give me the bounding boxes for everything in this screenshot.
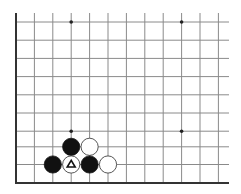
white-stone (99, 156, 116, 173)
star-point (180, 129, 184, 133)
star-point (180, 20, 184, 24)
black-stone (81, 156, 98, 173)
stones (44, 138, 116, 173)
go-board (0, 0, 241, 194)
star-point (69, 129, 73, 133)
star-point (69, 20, 73, 24)
white-stone (81, 138, 98, 155)
black-stone (63, 138, 80, 155)
white-stone (63, 156, 80, 173)
black-stone (44, 156, 61, 173)
